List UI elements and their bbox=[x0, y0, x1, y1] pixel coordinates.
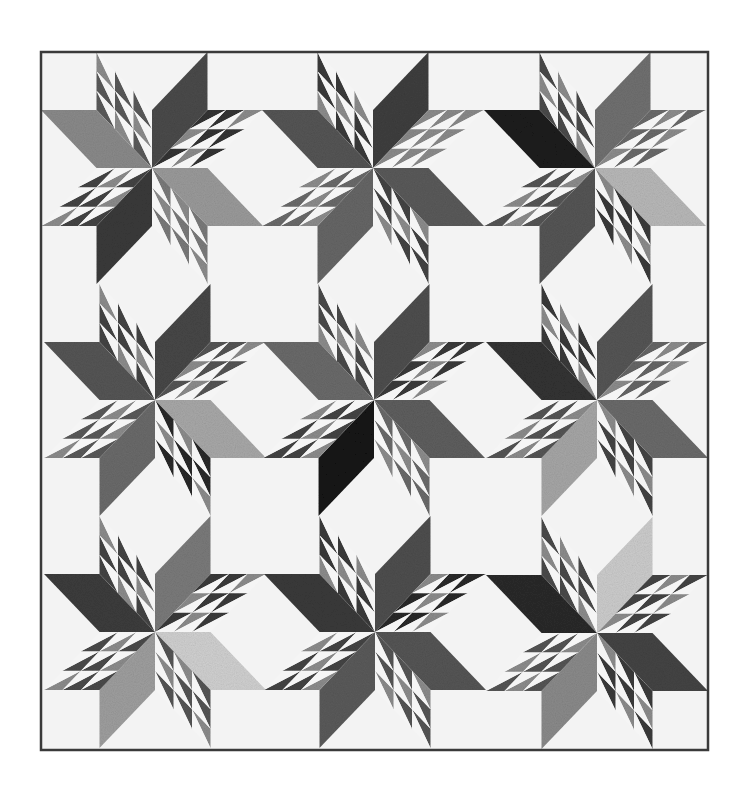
quilt-photo: Black-and-white LeMoyne star quilt with … bbox=[0, 0, 734, 797]
quilt-canvas bbox=[0, 0, 734, 797]
stars-layer bbox=[41, 52, 708, 749]
